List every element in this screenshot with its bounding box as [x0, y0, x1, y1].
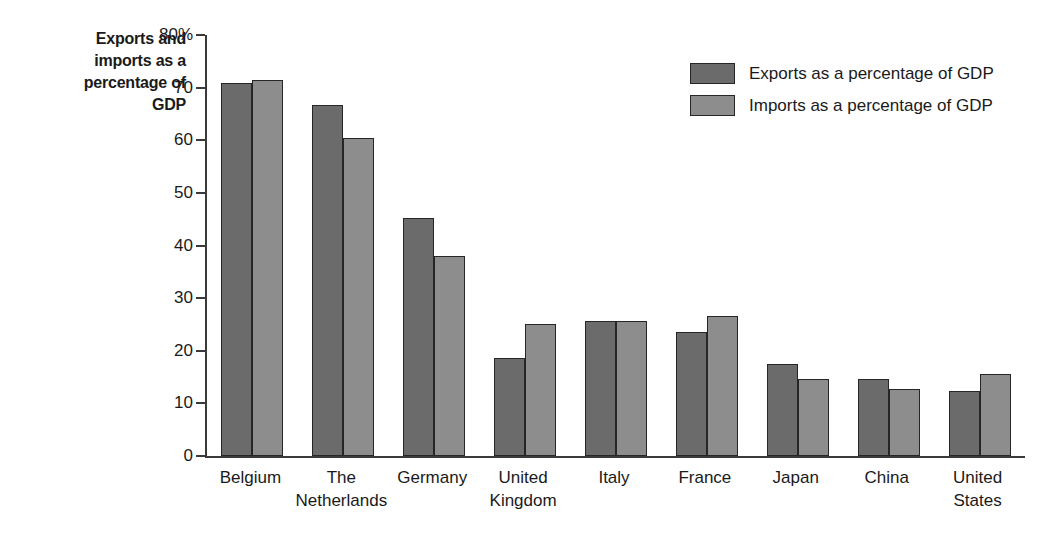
bar	[707, 316, 738, 457]
bar	[585, 321, 616, 456]
legend-label-exports: Exports as a percentage of GDP	[749, 63, 994, 84]
x-axis-label: UnitedStates	[918, 466, 1038, 512]
y-axis-tick-label-30: 30	[123, 289, 193, 306]
bar	[403, 218, 434, 456]
bar	[252, 80, 283, 456]
bar	[858, 379, 889, 456]
bar	[312, 105, 343, 456]
y-axis-tick-0	[196, 455, 205, 457]
y-axis-tick-20	[196, 350, 205, 352]
bar	[343, 138, 374, 456]
y-axis-tick-10	[196, 402, 205, 404]
y-axis-title-line-2: imports as a	[14, 50, 186, 72]
y-axis-tick-label-80: 80%	[123, 26, 193, 43]
y-axis-tick-40	[196, 245, 205, 247]
bar-group	[585, 35, 647, 456]
chart-legend: Exports as a percentage of GDP Imports a…	[690, 57, 1040, 121]
y-axis-tick-label-50: 50	[123, 184, 193, 201]
y-axis-tick-50	[196, 192, 205, 194]
bar	[221, 83, 252, 456]
bar	[434, 256, 465, 456]
bar-group	[403, 35, 465, 456]
bar	[798, 379, 829, 456]
bar	[494, 358, 525, 456]
bar-group	[494, 35, 556, 456]
chart-container: Exports and imports as a percentage of G…	[0, 0, 1042, 533]
x-axis-line	[205, 456, 1025, 458]
y-axis-tick-label-20: 20	[123, 342, 193, 359]
y-axis-tick-label-40: 40	[123, 237, 193, 254]
legend-item-exports: Exports as a percentage of GDP	[690, 57, 1040, 89]
bar-group	[221, 35, 283, 456]
bar	[889, 389, 920, 456]
legend-swatch-imports-icon	[690, 95, 735, 116]
legend-item-imports: Imports as a percentage of GDP	[690, 89, 1040, 121]
x-axis-label-line: Kingdom	[463, 489, 583, 512]
x-axis-label-line: United	[918, 466, 1038, 489]
legend-label-imports: Imports as a percentage of GDP	[749, 95, 993, 116]
bar	[676, 332, 707, 456]
y-axis-title-line-4: GDP	[14, 94, 186, 116]
y-axis-tick-label-60: 60	[123, 131, 193, 148]
y-axis-tick-label-0: 0	[123, 447, 193, 464]
bar	[980, 374, 1011, 456]
y-axis-tick-60	[196, 139, 205, 141]
y-axis-tick-label-10: 10	[123, 394, 193, 411]
bar	[616, 321, 647, 456]
bar	[767, 364, 798, 456]
bar	[949, 391, 980, 456]
y-axis-tick-label-70: 70	[123, 79, 193, 96]
legend-swatch-exports-icon	[690, 63, 735, 84]
bar	[525, 324, 556, 456]
y-axis-tick-30	[196, 297, 205, 299]
x-axis-label-line: Netherlands	[281, 489, 401, 512]
x-axis-tick-labels: BelgiumTheNetherlandsGermanyUnitedKingdo…	[205, 466, 1027, 528]
y-axis-tick-80	[196, 34, 205, 36]
bar-group	[312, 35, 374, 456]
y-axis-tick-70	[196, 87, 205, 89]
x-axis-label-line: States	[918, 489, 1038, 512]
